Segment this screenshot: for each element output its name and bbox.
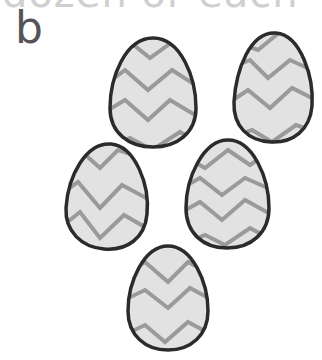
egg-5 [124, 246, 212, 350]
egg-2 [230, 32, 316, 142]
egg-1 [105, 38, 200, 150]
eggs-illustration [0, 0, 322, 360]
egg-3 [60, 144, 150, 249]
egg-4 [182, 140, 272, 248]
